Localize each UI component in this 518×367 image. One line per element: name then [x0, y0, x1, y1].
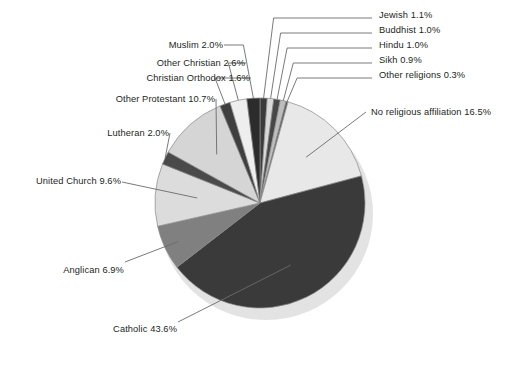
label-christian-orthodox: Christian Orthodox 1.6% [146, 73, 250, 84]
label-catholic: Catholic 43.6% [113, 324, 177, 335]
label-jewish: Jewish 1.1% [379, 10, 432, 21]
label-lutheran: Lutheran 2.0% [107, 128, 169, 139]
label-buddhist: Buddhist 1.0% [379, 25, 440, 36]
leader-line [271, 33, 372, 99]
label-anglican: Anglican 6.9% [63, 265, 124, 276]
pie-chart-figure: Jewish 1.1% Buddhist 1.0% Hindu 1.0% Sik… [0, 0, 518, 367]
label-other-protestant: Other Protestant 10.7% [116, 94, 215, 105]
label-united-church: United Church 9.6% [36, 176, 121, 187]
label-other-religions: Other religions 0.3% [379, 70, 465, 81]
label-sikh: Sikh 0.9% [379, 55, 422, 66]
label-other-christian: Other Christian 2.6% [157, 58, 245, 69]
label-no-affiliation: No religious affiliation 16.5% [371, 107, 491, 118]
leader-line [283, 63, 372, 101]
leader-line [287, 78, 372, 102]
pie-slice-group [155, 98, 365, 308]
leader-line [224, 45, 253, 98]
label-muslim: Muslim 2.0% [169, 40, 223, 51]
label-hindu: Hindu 1.0% [379, 40, 428, 51]
